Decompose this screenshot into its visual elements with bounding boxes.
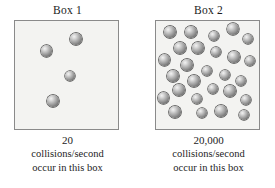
molecule [208, 84, 219, 95]
collision-count-1: 20 [6, 133, 129, 147]
panel-title-box-2: Box 2 [147, 3, 270, 17]
caption-line-2a: collisions/second [147, 147, 270, 161]
molecule [174, 42, 185, 53]
molecule [192, 42, 203, 53]
molecule [167, 70, 178, 81]
molecule [185, 26, 196, 37]
molecule [164, 26, 175, 37]
molecule [228, 51, 239, 62]
molecule [239, 110, 250, 121]
molecule [245, 56, 256, 67]
box-container-2 [155, 20, 260, 130]
molecule [197, 108, 208, 119]
molecule [158, 92, 169, 103]
caption-box-1: 20 collisions/second occur in this box [6, 133, 129, 174]
panel-title-box-1: Box 1 [6, 3, 129, 17]
molecule-field-1 [15, 21, 118, 129]
panel-box-2: Box 2 20,000 collisions/second occur in … [147, 0, 270, 188]
molecule [202, 66, 213, 77]
caption-box-2: 20,000 collisions/second occur in this b… [147, 133, 270, 174]
molecule [227, 23, 239, 35]
molecule-field-2 [156, 21, 259, 129]
panel-box-1: Box 1 20 collisions/second occur in this… [6, 0, 129, 188]
molecule [41, 45, 52, 56]
molecule [159, 54, 170, 65]
molecule [241, 95, 252, 106]
molecule [181, 59, 192, 70]
caption-line-2b: occur in this box [147, 161, 270, 175]
molecule [236, 76, 247, 87]
caption-line-1a: collisions/second [6, 147, 129, 161]
molecule [169, 106, 180, 117]
molecule [224, 85, 235, 96]
molecule [70, 33, 81, 44]
molecule-collision-figure: Box 1 20 collisions/second occur in this… [0, 0, 275, 188]
molecule [65, 71, 76, 82]
collision-count-2: 20,000 [147, 133, 270, 147]
molecule [173, 84, 184, 95]
molecule [220, 70, 231, 81]
molecule [209, 31, 219, 41]
molecule [192, 94, 203, 105]
caption-line-1b: occur in this box [6, 161, 129, 175]
molecule [215, 105, 226, 116]
box-container-1 [14, 20, 119, 130]
molecule [188, 75, 199, 86]
molecule [243, 34, 254, 45]
molecule [211, 47, 222, 58]
molecule [47, 95, 58, 106]
